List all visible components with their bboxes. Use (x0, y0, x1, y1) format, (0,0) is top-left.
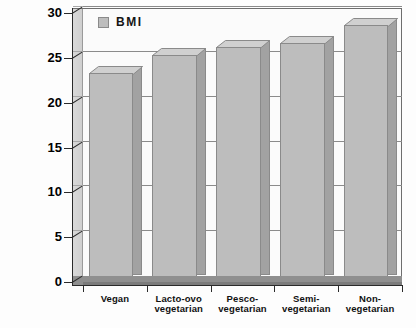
bar (152, 48, 197, 282)
y-axis-tick (64, 237, 72, 238)
bar-side-face (197, 48, 206, 275)
y-axis-label: 30 (22, 6, 62, 19)
bar (89, 66, 134, 282)
legend-label-bmi: BMI (116, 16, 143, 28)
x-axis-line (72, 285, 402, 286)
y-axis-label: 25 (22, 51, 62, 64)
bar-front-face (152, 55, 197, 282)
bar-side-face (133, 66, 142, 275)
bar-front-face (89, 73, 134, 282)
bar-front-face (280, 43, 325, 282)
y-axis-tick (64, 192, 72, 193)
x-axis-tick (211, 285, 212, 292)
legend: BMI (98, 16, 143, 28)
x-axis-tick (338, 285, 339, 292)
y-axis-label: 15 (22, 141, 62, 154)
x-axis-label: Non-vegetarian (332, 294, 408, 314)
x-axis-tick (83, 285, 84, 292)
bar (280, 36, 325, 282)
gridline (83, 6, 402, 7)
bar (216, 40, 261, 282)
x-axis-tick (274, 285, 275, 292)
bar-front-face (344, 25, 389, 282)
y-axis-label: 0 (22, 275, 62, 288)
bar-side-face (388, 18, 397, 275)
y-axis-label: 20 (22, 96, 62, 109)
y-axis-label: 5 (22, 230, 62, 243)
x-axis-label-line: vegetarian (332, 304, 408, 314)
x-axis-tick (147, 285, 148, 292)
bar-side-face (261, 40, 270, 275)
bar (344, 18, 389, 282)
bar-front-face (216, 47, 261, 282)
bmi-bar-chart: 051015202530 VeganLacto-ovovegetarianPes… (0, 0, 416, 328)
x-axis-tick (402, 285, 403, 292)
bar-side-face (325, 36, 334, 275)
y-axis-label: 10 (22, 185, 62, 198)
legend-swatch-bmi (98, 17, 109, 28)
